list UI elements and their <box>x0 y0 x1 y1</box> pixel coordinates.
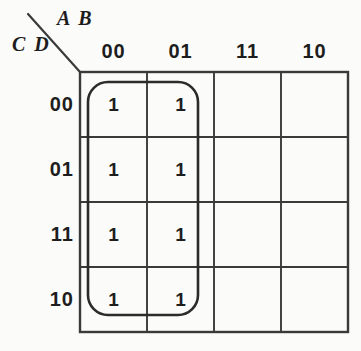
column-header-0: 00 <box>80 40 147 63</box>
cell-r1-c0: 1 <box>80 159 147 181</box>
cell-r1-c1: 1 <box>147 159 214 181</box>
column-header-1: 01 <box>147 40 214 63</box>
column-header-2: 11 <box>214 40 281 63</box>
karnaugh-map-figure: A B C D 00 01 11 10 00 01 11 10 1 1 1 1 … <box>0 0 361 351</box>
column-header-3: 10 <box>281 40 348 63</box>
cell-r2-c0: 1 <box>80 224 147 246</box>
row-header-3: 10 <box>18 288 74 311</box>
cell-r2-c1: 1 <box>147 224 214 246</box>
variable-label-cd: C D <box>12 33 51 56</box>
group-outline-columns-00-01 <box>88 82 198 315</box>
variable-label-ab: A B <box>57 7 94 30</box>
cell-r3-c0: 1 <box>80 289 147 311</box>
row-header-2: 11 <box>18 223 74 246</box>
cell-r0-c1: 1 <box>147 94 214 116</box>
cell-r3-c1: 1 <box>147 289 214 311</box>
row-header-1: 01 <box>18 158 74 181</box>
cell-r0-c0: 1 <box>80 94 147 116</box>
row-header-0: 00 <box>18 93 74 116</box>
